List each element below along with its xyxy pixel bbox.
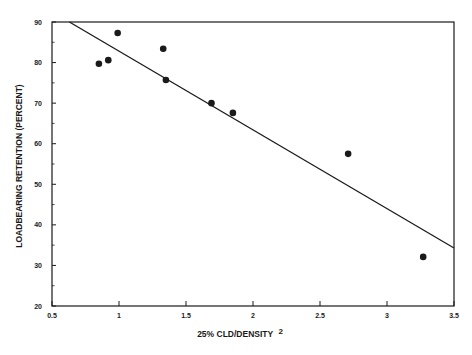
x-tick-label: 3 — [385, 312, 389, 319]
y-tick-label: 50 — [34, 181, 42, 188]
x-axis: 0.511.522.533.5 — [47, 301, 459, 319]
fit-line — [69, 22, 454, 248]
data-point — [160, 45, 167, 52]
x-axis-title: 25% CLD/DENSITY 2 — [197, 327, 283, 339]
data-point — [230, 110, 237, 117]
y-tick-label: 60 — [34, 140, 42, 147]
y-axis: 2030405060708090 — [34, 19, 56, 310]
data-point — [105, 57, 112, 64]
x-axis-title-superscript: 2 — [278, 327, 283, 336]
x-tick-label: 2.5 — [315, 312, 325, 319]
y-tick-label: 80 — [34, 59, 42, 66]
data-point — [420, 254, 427, 261]
regression-line — [69, 22, 454, 248]
y-tick-label: 40 — [34, 221, 42, 228]
data-point — [345, 151, 352, 158]
x-tick-label: 1.5 — [181, 312, 191, 319]
plot-frame — [52, 22, 454, 306]
data-point — [208, 100, 215, 107]
chart-canvas: 2030405060708090 0.511.522.533.5 LOADBEA… — [0, 0, 472, 355]
data-point — [163, 77, 170, 84]
y-tick-label: 30 — [34, 262, 42, 269]
x-tick-label: 3.5 — [449, 312, 459, 319]
y-tick-label: 20 — [34, 303, 42, 310]
x-tick-label: 2 — [251, 312, 255, 319]
y-tick-label: 90 — [34, 19, 42, 26]
data-points — [96, 30, 427, 261]
y-tick-label: 70 — [34, 100, 42, 107]
data-point — [114, 30, 121, 37]
x-tick-label: 0.5 — [47, 312, 57, 319]
x-tick-label: 1 — [117, 312, 121, 319]
data-point — [96, 60, 103, 67]
scatter-chart: 2030405060708090 0.511.522.533.5 LOADBEA… — [0, 0, 472, 355]
x-axis-title-text: 25% CLD/DENSITY — [197, 329, 273, 339]
y-axis-title: LOADBEARING RETENTION (PERCENT) — [14, 84, 24, 248]
plot-border — [52, 22, 454, 306]
